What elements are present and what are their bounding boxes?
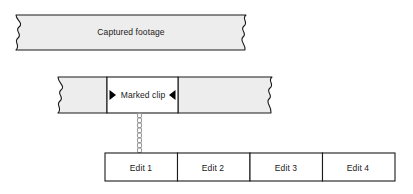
clip-strip-left-segment	[58, 77, 107, 113]
workflow-diagram: Captured footage Marked clip Edit 1 Edit…	[0, 0, 413, 194]
captured-footage-label: Captured footage	[15, 28, 247, 37]
clip-strip-right-segment	[178, 77, 272, 113]
edit-label-2: Edit 2	[177, 164, 249, 173]
edit-label-3: Edit 3	[250, 164, 322, 173]
marked-clip-label: Marked clip	[107, 91, 179, 100]
edit-label-1: Edit 1	[105, 164, 177, 173]
chain-link-icon	[138, 113, 142, 153]
edit-label-4: Edit 4	[322, 164, 394, 173]
